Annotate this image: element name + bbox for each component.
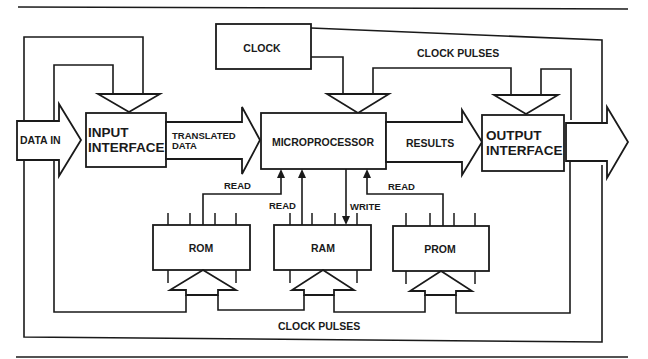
ram-label: RAM (311, 242, 335, 254)
prom-module: PROM (393, 213, 489, 295)
rom-module: ROM (153, 213, 250, 295)
clock-arrow-ram (292, 270, 354, 295)
output-interface-label-2: INTERFACE (486, 143, 563, 158)
ram-read-label: READ (269, 200, 296, 211)
microprocessor-label: MICROPROCESSOR (272, 136, 375, 148)
clock-label: CLOCK (243, 42, 281, 54)
input-interface-label-2: INTERFACE (88, 140, 165, 155)
clock-arrow-input-interface (98, 94, 160, 112)
rom-label: ROM (189, 242, 214, 254)
translated-data-label-2: DATA (172, 140, 197, 151)
microcomputer-block-diagram: DATA IN INPUT INTERFACE TRANSLATED DATA … (0, 0, 648, 359)
ram-write-label: WRITE (350, 201, 381, 212)
prom-read-label: READ (388, 181, 415, 192)
rom-read-label: READ (224, 180, 251, 191)
prom-read-line (363, 169, 443, 226)
ram-module: RAM (274, 213, 371, 295)
results-label: RESULTS (406, 137, 454, 149)
clock-pulses-bottom-label: CLOCK PULSES (278, 320, 360, 332)
clock-arrow-output-interface (494, 95, 558, 114)
data-in-label: DATA IN (20, 134, 61, 146)
clock-pulses-top-label: CLOCK PULSES (417, 47, 499, 59)
clock-arrow-prom (410, 271, 472, 295)
data-out-arrow (566, 107, 628, 178)
prom-label: PROM (424, 243, 456, 255)
ram-write-line (342, 169, 350, 225)
top-rule (18, 7, 628, 9)
output-interface-label-1: OUTPUT (486, 128, 542, 143)
clock-arrow-rom (170, 270, 236, 295)
ram-read-line (298, 169, 306, 225)
clock-arrow-microprocessor (327, 94, 389, 113)
input-interface-label-1: INPUT (88, 125, 129, 140)
